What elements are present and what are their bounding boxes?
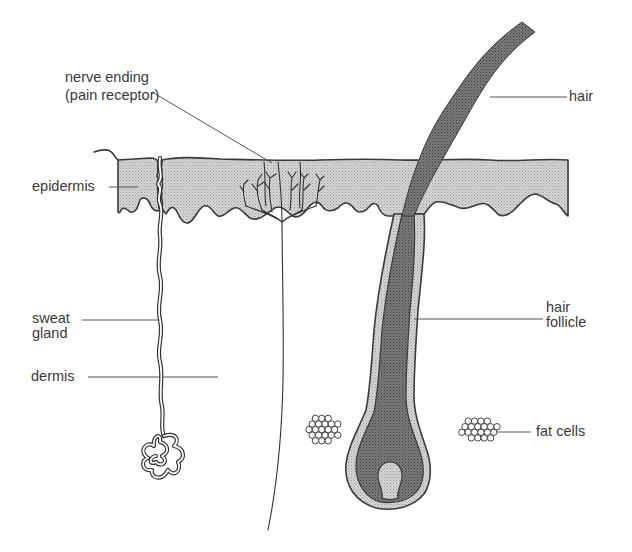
label-sweat-gland: sweat gland bbox=[32, 311, 70, 341]
label-nerve-ending-line2: (pain receptor) bbox=[65, 88, 159, 103]
epidermis-main-segment bbox=[161, 158, 568, 223]
label-epidermis: epidermis bbox=[32, 179, 95, 194]
label-dermis: dermis bbox=[31, 369, 75, 384]
fat-cell bbox=[475, 435, 481, 441]
label-hair-follicle-line1: hair bbox=[546, 300, 586, 315]
label-hair-follicle-line2: follicle bbox=[546, 315, 586, 330]
fat-cell bbox=[325, 438, 331, 444]
label-sweat-gland-line2: gland bbox=[32, 326, 70, 341]
fat-cell bbox=[335, 432, 341, 438]
label-fat-cells: fat cells bbox=[536, 424, 585, 439]
skin-diagram: nerve ending (pain receptor) hair epider… bbox=[0, 0, 632, 552]
hair-papilla bbox=[378, 462, 402, 500]
fat-cell bbox=[487, 435, 493, 441]
label-nerve-ending-line1: nerve ending bbox=[65, 70, 159, 85]
fat-cell bbox=[319, 438, 325, 444]
label-hair-follicle: hair follicle bbox=[546, 300, 586, 330]
fat-cell bbox=[312, 438, 318, 444]
epidermis-left-segment bbox=[118, 158, 160, 213]
label-sweat-gland-line1: sweat bbox=[32, 311, 70, 326]
leader-nerve-ending bbox=[152, 92, 272, 163]
label-hair: hair bbox=[569, 89, 593, 104]
skin-surface-edge bbox=[94, 150, 118, 160]
fat-cell bbox=[481, 435, 487, 441]
fat-cell bbox=[459, 429, 465, 435]
fat-cells-left bbox=[306, 415, 341, 444]
label-nerve-ending: nerve ending (pain receptor) bbox=[65, 70, 159, 103]
fat-cells-right bbox=[459, 418, 501, 441]
fat-cell bbox=[468, 435, 474, 441]
